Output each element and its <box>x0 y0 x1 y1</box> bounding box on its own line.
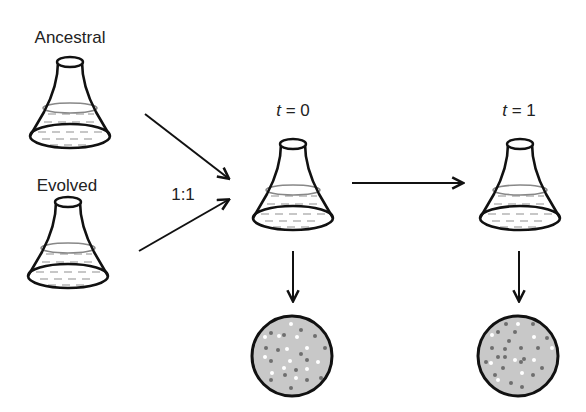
timepoint-1-label: t = 1 <box>502 101 536 120</box>
evolved-label: Evolved <box>37 176 97 195</box>
ratio-label: 1:1 <box>171 185 195 204</box>
arrow-evolved-to-mix <box>139 200 228 251</box>
ancestral-label: Ancestral <box>35 28 106 47</box>
t0-flask-icon <box>253 139 333 230</box>
evolved-flask-icon <box>28 197 108 288</box>
timepoint-0-label: t = 0 <box>276 101 310 120</box>
t1-flask-icon <box>480 139 560 230</box>
plate-t1-icon <box>478 316 558 396</box>
arrow-ancestral-to-mix <box>145 114 228 178</box>
competition-diagram: Ancestral Evolved 1:1 t = 0 t = 1 <box>0 0 586 412</box>
ancestral-flask-icon <box>30 57 110 148</box>
plate-t0-icon <box>252 316 332 396</box>
